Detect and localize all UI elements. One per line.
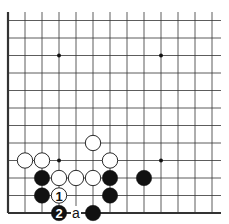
black-stone-icon xyxy=(102,188,117,203)
white-stone xyxy=(34,153,49,168)
white-stone-icon xyxy=(85,170,100,185)
black-stone-icon xyxy=(85,205,100,220)
white-stone: 1 xyxy=(51,188,66,204)
white-stone-icon xyxy=(85,135,100,150)
black-stone xyxy=(34,170,49,185)
star-point-icon xyxy=(159,159,163,163)
white-stone xyxy=(102,153,117,168)
white-stone-icon xyxy=(51,170,66,185)
white-stone-icon xyxy=(102,153,117,168)
marker-label: a xyxy=(72,205,80,221)
white-stone xyxy=(51,170,66,185)
star-point-icon xyxy=(57,159,61,163)
black-stone xyxy=(102,188,117,203)
black-stone xyxy=(34,188,49,203)
black-stone-icon xyxy=(34,188,49,203)
black-stone-icon xyxy=(102,170,117,185)
black-stone: 2 xyxy=(51,205,66,221)
white-stone xyxy=(17,153,32,168)
white-stone-icon xyxy=(68,170,83,185)
black-stone-icon xyxy=(136,170,151,185)
black-stone xyxy=(102,170,117,185)
white-stone xyxy=(68,170,83,185)
white-stone-icon xyxy=(34,153,49,168)
white-stone-icon xyxy=(17,153,32,168)
black-stone xyxy=(136,170,151,185)
move-number: 2 xyxy=(55,206,62,221)
white-stone xyxy=(85,170,100,185)
star-point-icon xyxy=(57,54,61,58)
black-stone-icon xyxy=(34,170,49,185)
black-stone xyxy=(85,205,100,220)
white-stone xyxy=(85,135,100,150)
star-point-icon xyxy=(159,54,163,58)
move-number: 1 xyxy=(55,189,62,204)
go-board: a12 xyxy=(0,0,229,224)
